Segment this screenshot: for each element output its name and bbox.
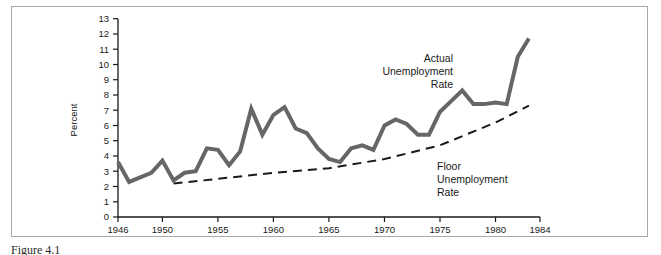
y-axis-ticks — [113, 19, 118, 217]
x-axis-ticks — [118, 217, 540, 222]
actual-unemployment-rate-line — [118, 39, 529, 182]
y-tick-label: 5 — [104, 135, 109, 146]
y-axis-tick-labels: 0 1 2 3 4 5 6 7 8 9 10 11 12 13 — [98, 13, 109, 222]
floor-annotation-line3: Rate — [437, 186, 459, 198]
y-axis-title: Percent — [68, 103, 79, 136]
x-tick-label: 1965 — [318, 224, 339, 235]
chart-plot-area: 0 1 2 3 4 5 6 7 8 9 10 11 12 13 Percent — [0, 0, 661, 255]
unemployment-line-chart: 0 1 2 3 4 5 6 7 8 9 10 11 12 13 Percent — [0, 0, 661, 255]
y-tick-label: 10 — [98, 59, 109, 70]
x-tick-label: 1955 — [207, 224, 228, 235]
y-tick-label: 2 — [104, 181, 109, 192]
y-tick-label: 3 — [104, 166, 109, 177]
floor-annotation-line1: Floor — [437, 160, 461, 172]
actual-annotation-line1: Actual — [424, 52, 453, 64]
x-tick-label: 1946 — [107, 224, 128, 235]
y-tick-label: 12 — [98, 28, 109, 39]
y-tick-label: 6 — [104, 120, 109, 131]
figure-caption: Figure 4.1 — [11, 243, 60, 255]
x-tick-label: 1950 — [152, 224, 173, 235]
floor-unemployment-rate-line — [174, 106, 529, 184]
floor-annotation-line2: Unemployment — [437, 173, 508, 185]
y-tick-label: 8 — [104, 89, 109, 100]
x-axis-tick-labels: 1946 1950 1955 1960 1965 1970 1975 1980 … — [107, 224, 550, 235]
actual-annotation-line2: Unemployment — [382, 65, 453, 77]
y-tick-label: 13 — [98, 13, 109, 24]
y-tick-label: 1 — [104, 196, 109, 207]
actual-rate-annotation: Actual Unemployment Rate — [382, 52, 453, 90]
y-tick-label: 11 — [99, 44, 109, 55]
x-tick-label: 1980 — [485, 224, 506, 235]
y-tick-label: 0 — [104, 211, 109, 222]
figure-container: 0 1 2 3 4 5 6 7 8 9 10 11 12 13 Percent — [0, 0, 661, 255]
y-tick-label: 4 — [104, 150, 109, 161]
x-tick-label: 1984 — [529, 224, 550, 235]
y-tick-label: 9 — [104, 74, 109, 85]
actual-annotation-line3: Rate — [431, 78, 453, 90]
x-tick-label: 1975 — [429, 224, 450, 235]
x-tick-label: 1970 — [374, 224, 395, 235]
y-tick-label: 7 — [104, 105, 109, 116]
x-tick-label: 1960 — [263, 224, 284, 235]
floor-rate-annotation: Floor Unemployment Rate — [437, 160, 508, 198]
